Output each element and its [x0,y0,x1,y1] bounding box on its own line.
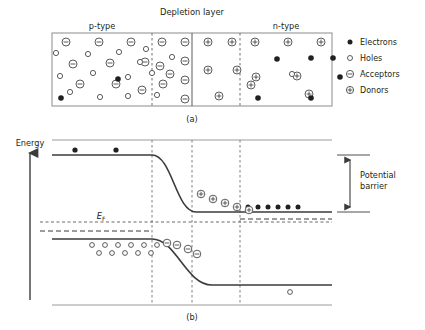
hole-symbol [154,92,159,97]
filled-circle-icon [348,40,353,45]
hole-symbol [97,94,102,99]
electron-symbol [256,205,261,210]
hole-symbol [142,243,147,248]
electron-symbol [308,55,314,61]
electron-symbol [274,56,280,62]
acceptor-symbol [138,86,146,94]
depletion-layer-title: Depletion layer [160,7,225,17]
potential-barrier-label-line1: Potential [360,170,396,180]
panel-a-caption: (a) [186,114,197,124]
hole-symbol [90,243,95,248]
electron-symbol [113,147,118,152]
electron-symbols-p-region [58,76,121,101]
acceptor-symbol [62,38,70,46]
legend-donors-row: Donors [346,86,388,95]
legend-holes-row: Holes [348,54,383,63]
donor-symbol [197,190,205,198]
acceptor-symbol [69,60,77,68]
hole-symbol [288,290,293,295]
p-type-label: p-type [89,21,115,31]
electron-symbol [330,55,336,61]
hole-symbol [90,70,95,75]
pn-junction-diagram: Depletion layer p-type n-type (a) Electr… [0,0,425,330]
hole-symbol [116,49,121,54]
open-circle-icon [348,56,353,61]
holes-p-side-band [90,243,160,256]
electrons-n-side-band [246,205,301,210]
hole-symbol [53,50,58,55]
hole-symbol [155,243,160,248]
donor-symbol [204,66,212,74]
conduction-band-edge [52,155,332,212]
hole-symbols-n-region [289,71,294,76]
hole-symbol [125,74,130,79]
donor-symbol [209,195,217,203]
acceptor-symbol [181,38,189,46]
acceptor-symbol [76,80,84,88]
donor-symbol [233,66,241,74]
hole-symbol [57,73,62,78]
electron-symbol [286,205,291,210]
electron-symbol [72,147,77,152]
legend-label-holes: Holes [360,54,382,63]
hole-symbol [85,51,90,56]
hole-symbol [116,243,121,248]
acceptor-symbol [95,38,103,46]
acceptor-symbol [127,38,135,46]
hole-symbol [143,46,148,51]
hole-symbol [289,71,294,76]
electron-symbol [337,74,343,80]
panel-a: Depletion layer p-type n-type (a) [52,7,343,124]
legend-label-electrons: Electrons [360,38,397,47]
acceptor-symbol [173,241,181,249]
donor-symbol [251,38,259,46]
acceptor-symbol [156,62,164,70]
acceptor-symbol [158,38,166,46]
donor-symbol [221,199,229,207]
acceptor-symbol [181,76,189,84]
potential-barrier-label-line2: barrier [360,181,388,191]
electron-symbol [296,205,301,210]
hole-symbol [67,89,72,94]
electron-symbol [58,95,64,101]
donor-symbol [247,81,255,89]
acceptor-symbol [181,57,189,65]
n-type-label: n-type [273,21,299,31]
hole-symbol [123,251,128,256]
electrons-p-side-band [72,147,118,152]
electron-symbol [115,76,121,82]
legend-electrons-row: Electrons [348,38,397,47]
donor-symbol [215,92,223,100]
hole-symbol [149,251,154,256]
electron-symbol [255,95,261,101]
legend-label-acceptors: Acceptors [360,70,400,79]
hole-symbol [169,54,174,59]
hole-symbol [137,59,142,64]
hole-symbol [129,243,134,248]
potential-barrier-annotation: Potential barrier [337,155,396,212]
acceptor-symbols-p-region [62,38,189,103]
legend-label-donors: Donors [360,86,388,95]
donor-symbol [233,203,241,211]
hole-symbol [125,93,130,98]
electron-symbol [276,205,281,210]
hole-symbol [149,70,154,75]
acceptor-symbol [166,70,174,78]
donor-symbol [228,38,236,46]
fermi-level-label: EF [97,211,106,222]
panel-b: Energy EF Potential bar [16,138,396,322]
pn-junction-figure: Depletion layer p-type n-type (a) Electr… [0,0,425,330]
donor-symbol [317,38,325,46]
hole-symbol [110,251,115,256]
electron-symbol [308,95,314,101]
acceptor-symbol [193,250,201,258]
acceptor-symbol [184,245,192,253]
hole-symbols-p-region [53,46,174,99]
donor-symbol [245,206,253,214]
legend: Electrons Holes Acceptors Donors [346,38,399,95]
acceptor-symbol [106,59,114,67]
legend-acceptors-row: Acceptors [346,70,399,79]
acceptor-symbol [163,239,171,247]
donor-symbol [252,73,260,81]
acceptor-symbol [159,80,167,88]
